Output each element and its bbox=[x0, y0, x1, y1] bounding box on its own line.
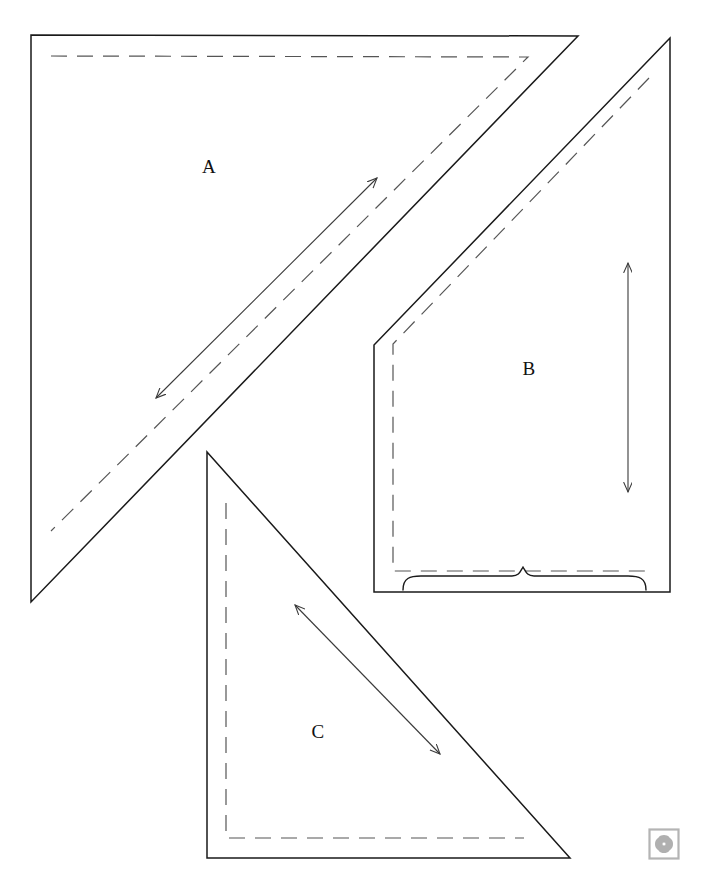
piece-c-label: C bbox=[311, 721, 324, 742]
piece-c-cut-line bbox=[207, 452, 570, 858]
logo-clover-petals bbox=[655, 835, 673, 853]
piece-b-seam-line bbox=[393, 78, 649, 571]
pattern-sheet: A B C bbox=[0, 0, 702, 887]
piece-a-cut-line bbox=[31, 35, 578, 602]
piece-a-grain-arrow bbox=[156, 178, 377, 398]
pattern-drawing-canvas: A B C bbox=[0, 0, 702, 887]
pattern-piece-b[interactable]: B bbox=[374, 38, 670, 592]
piece-b-label: B bbox=[522, 358, 535, 379]
pattern-piece-a[interactable]: A bbox=[31, 35, 578, 602]
piece-c-seam-line bbox=[226, 503, 524, 838]
pattern-piece-c[interactable]: C bbox=[207, 452, 570, 858]
piece-a-seam-line bbox=[51, 56, 528, 531]
logo-center-dot bbox=[662, 842, 666, 846]
piece-b-cut-line bbox=[374, 38, 670, 592]
piece-a-label: A bbox=[202, 156, 216, 177]
clover-logo-icon bbox=[650, 830, 679, 859]
